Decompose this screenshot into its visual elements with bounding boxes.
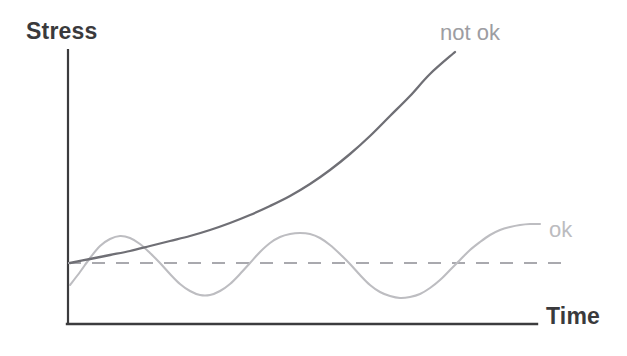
not-ok-curve-label: not ok bbox=[440, 22, 500, 44]
y-axis-title: Stress bbox=[26, 20, 98, 43]
x-axis-title: Time bbox=[546, 305, 600, 328]
ok-oscillating-curve bbox=[70, 224, 540, 298]
ok-curve-label: ok bbox=[549, 219, 572, 241]
chart-canvas bbox=[0, 0, 627, 356]
stress-over-time-chart: Stress Time not ok ok bbox=[0, 0, 627, 356]
not-ok-exponential-curve bbox=[70, 52, 455, 263]
